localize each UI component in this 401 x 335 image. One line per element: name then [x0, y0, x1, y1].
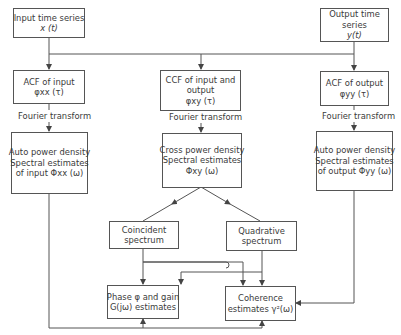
ccf-box: CCF of input and output φxy (τ) — [160, 70, 241, 111]
quadrative-line1: Quadrative — [238, 226, 285, 237]
quadrative-spectrum-box: Quadrative spectrum — [226, 221, 297, 251]
coincident-line1: Coincident — [122, 225, 167, 236]
coherence-estimates-box: Coherence estimates γ²(ω) — [225, 286, 296, 321]
apd-output-line3: of output Φyy (ω) — [318, 166, 392, 177]
cross-power-density-box: Cross power density Spectral estimates Φ… — [162, 133, 242, 188]
input-box-line2: x (t) — [40, 23, 57, 34]
phase-gain-estimates-box: Phase φ and gain G(jω) estimates — [107, 285, 179, 319]
phase-gain-line2: G(jω) estimates — [110, 302, 176, 313]
input-time-series-box: Input time series x (t) — [13, 8, 85, 38]
apd-input-line2: Spectral estimates — [10, 158, 88, 169]
output-box-line3: y(t) — [347, 30, 362, 41]
coherence-line1: Coherence — [238, 293, 283, 304]
acf-input-box: ACF of input φxx (τ) — [13, 70, 85, 104]
apd-input-line1: Auto power density — [9, 147, 90, 158]
apd-output-line1: Auto power density — [314, 145, 395, 156]
auto-power-density-output-box: Auto power density Spectral estimates of… — [316, 131, 393, 191]
cpd-line1: Cross power density — [160, 145, 245, 156]
cpd-line3: Φxy (ω) — [186, 166, 219, 177]
output-box-line1: Output time — [329, 9, 380, 20]
output-box-line2: series — [342, 20, 367, 31]
coincident-spectrum-box: Coincident spectrum — [109, 221, 179, 249]
auto-power-density-input-box: Auto power density Spectral estimates of… — [11, 132, 88, 194]
fourier-transform-label-left: Fourier transform — [18, 111, 91, 121]
coherence-line2: estimates γ²(ω) — [228, 304, 294, 315]
fourier-transform-label-middle: Fourier transform — [169, 112, 242, 122]
acf-input-line1: ACF of input — [23, 77, 74, 88]
apd-output-line2: Spectral estimates — [315, 156, 393, 167]
acf-input-line2: φxx (τ) — [34, 87, 64, 98]
input-box-line1: Input time series — [14, 13, 85, 24]
ccf-line3: φxy (τ) — [186, 96, 216, 107]
ccf-line1: CCF of input and — [166, 75, 236, 86]
fourier-transform-label-right: Fourier transform — [322, 111, 395, 121]
ccf-line2: output — [187, 85, 215, 96]
cpd-line2: Spectral estimates — [163, 155, 241, 166]
acf-output-line2: φyy (τ) — [340, 89, 370, 100]
apd-input-line3: of input Φxx (ω) — [16, 168, 84, 179]
coincident-line2: spectrum — [124, 235, 164, 246]
output-time-series-box: Output time series y(t) — [320, 8, 389, 42]
acf-output-line1: ACF of output — [326, 78, 383, 89]
phase-gain-line1: Phase φ and gain — [107, 292, 179, 303]
quadrative-line2: spectrum — [242, 236, 282, 247]
acf-output-box: ACF of output φyy (τ) — [320, 71, 389, 106]
